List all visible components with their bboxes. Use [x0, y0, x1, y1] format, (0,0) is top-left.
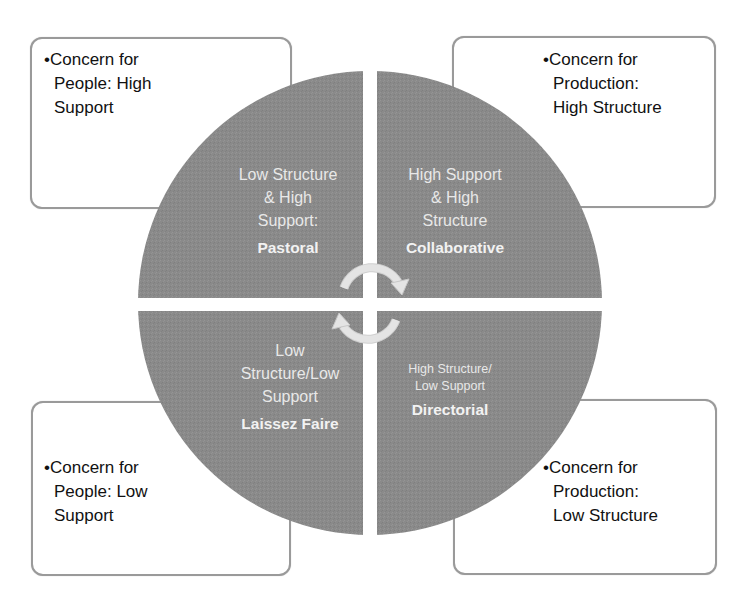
text-line: Support — [44, 96, 151, 120]
text-line: High Support — [380, 163, 530, 186]
text-line: & High — [380, 186, 530, 209]
text-line: People: Low — [44, 480, 148, 504]
text-line: •Concern for — [543, 456, 658, 480]
quadrant-text-top-right: High Support & High Structure Collaborat… — [380, 163, 530, 259]
text-line: Structure/Low — [216, 362, 364, 385]
text-line: Support: — [214, 209, 362, 232]
text-line: •Concern for — [44, 48, 151, 72]
style-label-laissez-faire: Laissez Faire — [216, 412, 364, 435]
text-line: High Structure — [543, 96, 662, 120]
quadrant-text-top-left: Low Structure & High Support: Pastoral — [214, 163, 362, 259]
corner-box-text-top-left: •Concern for People: High Support — [44, 48, 151, 120]
corner-box-text-bottom-left: •Concern for People: Low Support — [44, 456, 148, 528]
text-line: & High — [214, 186, 362, 209]
text-line: Support — [216, 385, 364, 408]
text-line: Low — [216, 339, 364, 362]
style-label-pastoral: Pastoral — [214, 236, 362, 259]
style-label-collaborative: Collaborative — [380, 236, 530, 259]
corner-box-text-top-right: •Concern for Production: High Structure — [543, 48, 662, 120]
text-line: Low Structure — [543, 504, 658, 528]
text-line: Low Structure — [214, 163, 362, 186]
text-line: Structure — [380, 209, 530, 232]
text-line: High Structure/ — [378, 361, 522, 378]
text-line: Support — [44, 504, 148, 528]
text-line: Production: — [543, 480, 658, 504]
text-line: Production: — [543, 72, 662, 96]
quadrant-text-bottom-right: High Structure/ Low Support Directorial — [378, 361, 522, 418]
text-line: People: High — [44, 72, 151, 96]
text-line: Low Support — [378, 378, 522, 395]
style-label-directorial: Directorial — [378, 401, 522, 418]
quadrant-text-bottom-left: Low Structure/Low Support Laissez Faire — [216, 339, 364, 435]
text-line: •Concern for — [44, 456, 148, 480]
text-line: •Concern for — [543, 48, 662, 72]
corner-box-text-bottom-right: •Concern for Production: Low Structure — [543, 456, 658, 528]
